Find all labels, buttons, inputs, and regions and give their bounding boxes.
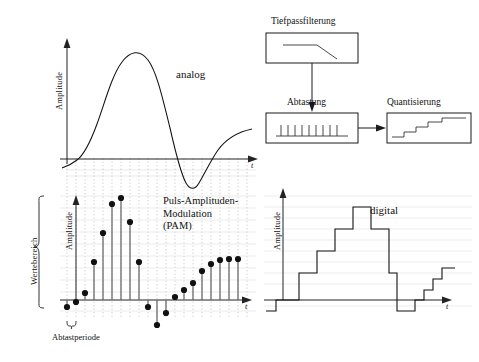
analog-x-axis-label: t <box>251 162 253 170</box>
block-sampling-label: Abtastung <box>287 98 326 108</box>
analog-axes <box>60 38 258 164</box>
block-quantization-label: Quantisierung <box>387 98 441 108</box>
block-lowpass-shape[interactable] <box>266 33 358 63</box>
arrow-sampling-to-quantization <box>358 125 386 132</box>
analog-y-axis-label: Amplitude <box>54 72 64 110</box>
analog-grid <box>66 170 256 176</box>
digital-annotation: digital <box>370 205 398 216</box>
analog-annotation: analog <box>176 69 205 80</box>
figure-svg <box>0 0 479 362</box>
block-sampling-shape[interactable] <box>266 113 358 143</box>
wertebereich-label: Wertebereich <box>29 238 39 286</box>
analog-waveform <box>62 53 252 189</box>
figure-canvas: Amplitude t analog Amplitude t Puls-Ampl… <box>0 0 479 362</box>
block-quantization-shape[interactable] <box>387 113 471 143</box>
digital-y-axis-label: Amplitude <box>272 212 282 250</box>
pam-x-axis-label: t <box>245 303 247 311</box>
block-lowpass-label: Tiefpassfilterung <box>271 17 336 27</box>
pam-annotation-line-1: Puls-Amplituden- <box>163 195 238 208</box>
digital-waveform <box>266 207 455 311</box>
pam-annotation: Puls-Amplituden- Modulation (PAM) <box>163 195 238 233</box>
pam-y-axis-label: Amplitude <box>64 212 74 250</box>
pam-annotation-line-2: Modulation <box>163 208 238 221</box>
pam-annotation-line-3: (PAM) <box>163 220 238 233</box>
abtastperiode-label: Abtastperiode <box>52 333 100 342</box>
digital-grid <box>264 196 472 306</box>
abtastperiode-brace <box>67 321 76 329</box>
digital-x-axis-label: t <box>446 303 448 311</box>
digital-axes <box>264 188 452 303</box>
